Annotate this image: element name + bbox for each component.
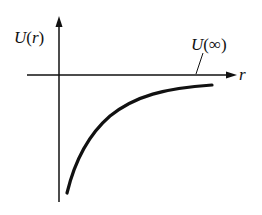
y-axis-arrow-icon [56,16,63,27]
asymptote-label: U(∞) [191,35,227,54]
potential-energy-diagram: U(r) U(∞) r [0,0,262,215]
potential-curve [67,85,212,193]
x-axis-label: r [239,65,246,84]
x-axis-arrow-icon [226,72,237,79]
y-axis-label: U(r) [14,28,44,47]
asymptote-leader-line [196,53,203,74]
